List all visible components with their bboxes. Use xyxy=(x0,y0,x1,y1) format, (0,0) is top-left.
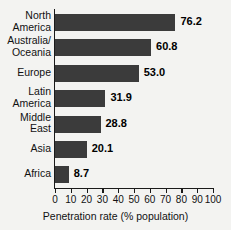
x-tick xyxy=(55,189,56,193)
x-tick-label: 30 xyxy=(97,194,108,205)
x-tick-label: 70 xyxy=(160,194,171,205)
x-tick xyxy=(87,189,88,193)
bar xyxy=(55,116,101,133)
bar-chart: · · NorthAmerica76.2Australia/Oceania60.… xyxy=(0,0,231,230)
x-tick-label: 100 xyxy=(205,194,222,205)
category-label: Australia/Oceania xyxy=(0,35,51,58)
x-tick xyxy=(102,189,103,193)
cropped-title-text: · · xyxy=(58,0,74,3)
bar xyxy=(55,90,105,107)
bar-value-label: 53.0 xyxy=(144,66,165,78)
bar xyxy=(55,65,139,82)
category-label: Africa xyxy=(0,168,51,180)
category-label: Asia xyxy=(0,143,51,155)
bar-row: Australia/Oceania60.8 xyxy=(0,36,231,60)
category-label: NorthAmerica xyxy=(0,10,51,33)
x-tick-label: 50 xyxy=(128,194,139,205)
x-tick-label: 40 xyxy=(113,194,124,205)
x-tick xyxy=(166,189,167,193)
bar-value-label: 31.9 xyxy=(110,91,131,103)
x-tick xyxy=(197,189,198,193)
x-tick xyxy=(134,189,135,193)
x-tick xyxy=(213,189,214,193)
x-tick xyxy=(118,189,119,193)
bar-value-label: 20.1 xyxy=(92,142,113,154)
x-axis-title: Penetration rate (% population) xyxy=(0,210,231,222)
category-label: Europe xyxy=(0,67,51,79)
x-tick-label: 80 xyxy=(176,194,187,205)
x-tick xyxy=(181,189,182,193)
bar-row: Africa8.7 xyxy=(0,163,231,187)
bar xyxy=(55,14,175,31)
x-tick-label: 90 xyxy=(192,194,203,205)
bar-value-label: 28.8 xyxy=(106,117,127,129)
bar-row: LatinAmerica31.9 xyxy=(0,87,231,111)
cropped-title-remnant: · · xyxy=(0,0,231,8)
x-tick-label: 60 xyxy=(144,194,155,205)
x-tick-label: 0 xyxy=(52,194,58,205)
bar-value-label: 8.7 xyxy=(74,167,89,179)
x-tick xyxy=(71,189,72,193)
bar-row: Europe53.0 xyxy=(0,62,231,86)
x-tick-label: 20 xyxy=(81,194,92,205)
bar-row: NorthAmerica76.2 xyxy=(0,11,231,35)
x-tick-label: 10 xyxy=(65,194,76,205)
category-label: LatinAmerica xyxy=(0,86,51,109)
bar-row: MiddleEast28.8 xyxy=(0,113,231,137)
category-label: MiddleEast xyxy=(0,112,51,135)
bar-value-label: 76.2 xyxy=(180,15,201,27)
bar xyxy=(55,39,151,56)
bar-value-label: 60.8 xyxy=(156,40,177,52)
bar xyxy=(55,141,87,158)
bar-row: Asia20.1 xyxy=(0,138,231,162)
bar xyxy=(55,166,69,183)
y-axis-line xyxy=(54,9,55,189)
plot-area: NorthAmerica76.2Australia/Oceania60.8Eur… xyxy=(0,9,231,189)
x-tick xyxy=(150,189,151,193)
